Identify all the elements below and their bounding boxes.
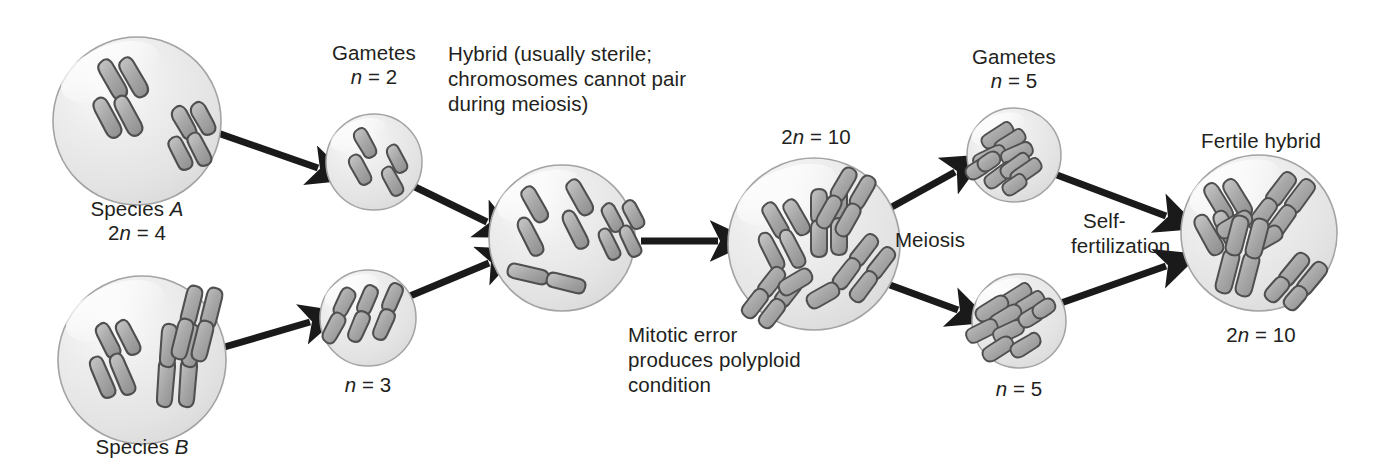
hybrid-description-line3: during meiosis): [448, 91, 589, 116]
gametes-a-ploidy-label: n = 2: [351, 64, 398, 89]
arrow-polyploid-to-gametes-bottom: [890, 285, 958, 310]
fertile-hybrid-ploidy-label: 2n = 10: [1226, 322, 1296, 347]
gametes-bottom-ploidy-label: n = 5: [996, 376, 1043, 401]
meiosis-label: Meiosis: [895, 227, 965, 252]
hybrid-description-label: Hybrid (usually sterile;: [448, 41, 652, 66]
hybrid-description-line2: chromosomes cannot pair: [448, 66, 686, 91]
species-b-cell: [57, 267, 226, 444]
gametes-b-cell: [320, 267, 416, 366]
gametes-a-cell: [326, 111, 422, 210]
self-fertilization-line2: fertilization: [1071, 233, 1170, 258]
species-a-cell: [52, 28, 221, 205]
gametes-bottom-cell: [966, 272, 1066, 368]
arrow-polyploid-to-gametes-top: [890, 172, 955, 208]
self-fertilization-label: Self-: [1083, 208, 1126, 233]
arrow-species-b-to-gametes-b: [221, 322, 310, 348]
diagram-canvas: Species A 2n = 4 Species B Gametes n = 2…: [0, 0, 1374, 468]
fertile-hybrid-label: Fertile hybrid: [1201, 128, 1321, 153]
arrow-species-a-to-gametes-a: [212, 131, 318, 168]
mitotic-error-line2: produces polyploid: [628, 347, 801, 372]
gametes-top-cell: [966, 106, 1061, 202]
mitotic-error-label: Mitotic error: [628, 322, 738, 347]
gametes-top-ploidy-label: n = 5: [991, 68, 1038, 93]
species-b-label: Species B: [95, 434, 188, 459]
gametes-a-title-label: Gametes: [332, 40, 416, 65]
arrow-gametes-a-to-hybrid: [413, 186, 487, 222]
arrow-gametes-bottom-to-fertile: [1061, 266, 1166, 303]
polyploid-ploidy-label: 2n = 10: [781, 124, 851, 149]
sterile-hybrid-cell: [489, 159, 644, 311]
fertile-hybrid-cell: [1181, 148, 1337, 311]
polyploid-cell: [728, 151, 900, 330]
mitotic-error-line3: condition: [628, 372, 711, 397]
species-a-label: Species A: [90, 196, 183, 221]
arrow-gametes-b-to-hybrid: [410, 263, 489, 296]
species-a-ploidy-label: 2n = 4: [108, 220, 166, 245]
gametes-b-ploidy-label: n = 3: [345, 372, 392, 397]
gametes-top-title-label: Gametes: [972, 44, 1056, 69]
